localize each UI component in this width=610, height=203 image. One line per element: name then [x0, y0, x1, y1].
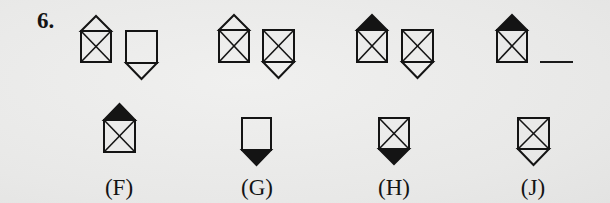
filled-triangle-top-icon — [497, 15, 527, 30]
outline-triangle-bottom-icon — [263, 62, 294, 78]
filled-triangle-bottom-icon — [242, 150, 271, 165]
answer-figure-f[interactable] — [104, 104, 135, 152]
figure-canvas — [0, 0, 610, 203]
sequence-figure-2 — [126, 31, 157, 79]
filled-triangle-top-icon — [104, 104, 135, 120]
sequence-figure-5 — [357, 15, 387, 62]
filled-triangle-top-icon — [357, 15, 387, 30]
sequence-figure-4 — [263, 30, 294, 78]
outline-triangle-top-icon — [219, 15, 249, 30]
answer-figure-h[interactable] — [379, 118, 409, 164]
square-icon — [242, 118, 271, 150]
outline-triangle-bottom-icon — [518, 149, 549, 165]
answer-label-g[interactable]: (G) — [241, 176, 273, 199]
answer-label-j[interactable]: (J) — [521, 176, 545, 199]
answer-label-f[interactable]: (F) — [105, 176, 133, 199]
answer-figure-g[interactable] — [242, 118, 271, 165]
sequence-figure-3 — [219, 15, 249, 62]
question-page: 6. (F) (G) (H) (J) — [0, 0, 610, 203]
square-icon — [126, 31, 157, 63]
answer-figure-j[interactable] — [518, 118, 549, 165]
filled-triangle-bottom-icon — [379, 149, 409, 164]
answer-blank — [540, 61, 573, 63]
sequence-figure-1 — [81, 16, 111, 62]
outline-triangle-bottom-icon — [126, 63, 157, 79]
sequence-figure-6 — [402, 30, 433, 78]
outline-triangle-top-icon — [81, 16, 111, 31]
sequence-figure-7 — [497, 15, 527, 62]
outline-triangle-bottom-icon — [402, 62, 433, 78]
answer-label-h[interactable]: (H) — [378, 176, 410, 199]
